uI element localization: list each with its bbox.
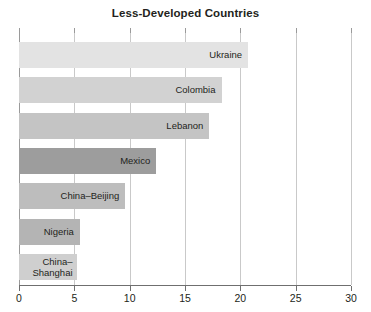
bar-row[interactable]: Nigeria [19, 219, 80, 245]
bar[interactable]: Mexico [19, 148, 156, 174]
bar-row[interactable]: Colombia [19, 77, 222, 103]
x-tick-30 [351, 286, 352, 291]
bar[interactable]: Lebanon [19, 113, 209, 139]
x-tick-5 [74, 286, 75, 291]
bar[interactable]: Nigeria [19, 219, 80, 245]
bar-value-label: China–Shanghai [21, 257, 73, 278]
plot-area: UkraineColombiaLebanonMexicoChina–Beijin… [19, 33, 351, 285]
bar-value-label: Ukraine [209, 49, 242, 60]
top-tick-30 [351, 28, 352, 33]
bar-value-label: Nigeria [44, 227, 74, 238]
x-tick-20 [240, 286, 241, 291]
x-axis-tick-labels: 051015202530 [19, 292, 351, 308]
x-tick-label: 15 [179, 292, 191, 304]
bar-series: UkraineColombiaLebanonMexicoChina–Beijin… [19, 33, 351, 285]
gridline-30 [351, 33, 352, 285]
bar[interactable]: China–Shanghai [19, 254, 77, 280]
x-tick-label: 20 [234, 292, 246, 304]
bar-value-label: Mexico [120, 156, 150, 167]
x-tick-label: 30 [345, 292, 357, 304]
x-tick-25 [296, 286, 297, 291]
x-tick-label: 25 [290, 292, 302, 304]
bar-row[interactable]: China–Shanghai [19, 254, 77, 280]
bar[interactable]: Colombia [19, 77, 222, 103]
x-tick-label: 10 [124, 292, 136, 304]
bar-value-label: Lebanon [166, 120, 203, 131]
x-tick-label: 0 [16, 292, 22, 304]
bar[interactable]: Ukraine [19, 42, 248, 68]
bar-row[interactable]: China–Beijing [19, 183, 125, 209]
x-tick-15 [185, 286, 186, 291]
bar-row[interactable]: Lebanon [19, 113, 209, 139]
x-tick-0 [19, 286, 20, 291]
x-tick-10 [130, 286, 131, 291]
bar-value-label: Colombia [175, 85, 215, 96]
bar-chart: Less-Developed Countries UkraineColombia… [0, 0, 371, 312]
bar-row[interactable]: Ukraine [19, 42, 248, 68]
x-tick-label: 5 [71, 292, 77, 304]
chart-title: Less-Developed Countries [0, 7, 371, 19]
bar[interactable]: China–Beijing [19, 183, 125, 209]
bar-row[interactable]: Mexico [19, 148, 156, 174]
bar-value-label: China–Beijing [61, 191, 120, 202]
